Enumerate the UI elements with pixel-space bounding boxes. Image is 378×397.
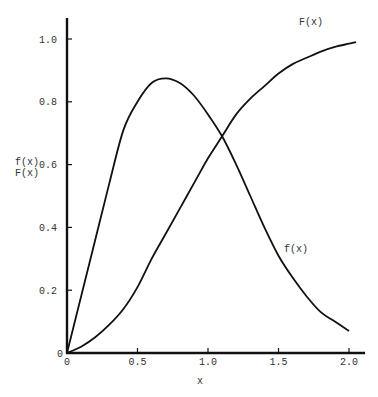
y-tick-label: 0 bbox=[57, 349, 63, 360]
curve-label-f: f(x) bbox=[284, 244, 308, 255]
y-tick-label: 1.0 bbox=[39, 35, 57, 46]
curve-f bbox=[67, 78, 349, 353]
y-axis-label-F: F(x) bbox=[15, 168, 39, 179]
x-tick-label: 1.5 bbox=[269, 357, 287, 368]
x-tick-label: 2.0 bbox=[340, 357, 358, 368]
x-tick-label: 0 bbox=[64, 357, 70, 368]
x-tick-label: 0.5 bbox=[128, 357, 146, 368]
y-tick-label: 0.2 bbox=[39, 286, 57, 297]
x-tick-label: 1.0 bbox=[199, 357, 217, 368]
x-ticks: 00.51.01.52.0 bbox=[64, 348, 358, 368]
curve-label-F: F(x) bbox=[299, 17, 323, 28]
y-axis-label-f: f(x) bbox=[15, 157, 39, 168]
x-axis-label: x bbox=[197, 376, 203, 387]
y-tick-label: 0.6 bbox=[39, 160, 57, 171]
chart: 00.20.40.60.81.0 00.51.01.52.0 f(x) F(x)… bbox=[0, 0, 378, 397]
curve-F-cumulative bbox=[67, 42, 356, 353]
y-tick-label: 0.4 bbox=[39, 223, 57, 234]
y-tick-label: 0.8 bbox=[39, 97, 57, 108]
